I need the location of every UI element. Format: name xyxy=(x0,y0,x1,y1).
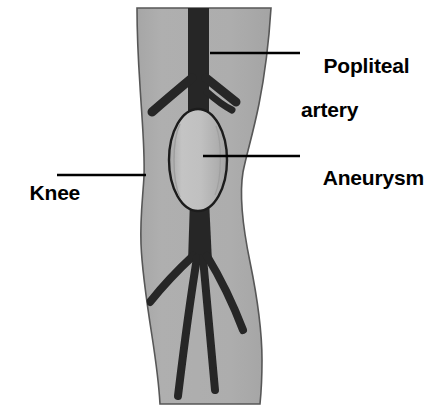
popliteal-artery-upper-trunk xyxy=(188,6,209,118)
label-popliteal-artery-line2: artery xyxy=(301,99,409,121)
label-knee-line1: Knee xyxy=(30,181,81,204)
label-aneurysm-line1: Aneurysm xyxy=(323,166,424,189)
aneurysm-bulge xyxy=(169,109,227,211)
label-aneurysm: Aneurysm xyxy=(301,145,424,211)
aneurysm-body xyxy=(169,109,227,211)
label-popliteal-artery-line1: Popliteal xyxy=(324,54,410,77)
artery-trunk-segment xyxy=(188,6,209,118)
label-knee: Knee xyxy=(7,160,80,226)
